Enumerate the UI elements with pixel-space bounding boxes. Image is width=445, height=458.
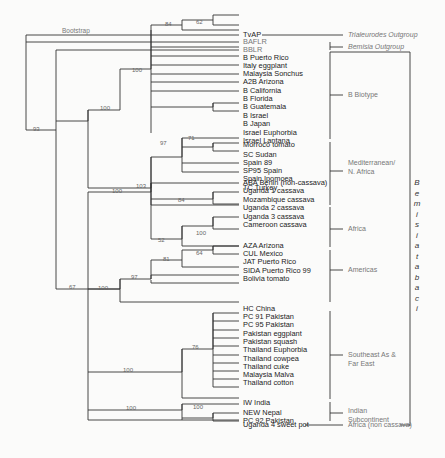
bootstrap-value: 52 — [158, 237, 165, 243]
bootstrap-value: 103 — [136, 183, 146, 189]
tip-label: Bolivia tomato — [243, 275, 289, 283]
group-label: Southeast As &Far East — [348, 351, 396, 368]
group-label: Bemisia Outgroup — [348, 43, 404, 52]
tip-label: IW India — [243, 399, 270, 407]
tip-label: Uganda 2 cassava — [243, 204, 304, 212]
bootstrap-value: 100 — [193, 404, 203, 410]
tip-label: Uganda 4 sweet pot — [243, 421, 309, 429]
tip-label: A2B Arizona — [243, 78, 284, 86]
bootstrap-value: 71 — [188, 135, 195, 141]
bootstrap-value: 100 — [132, 67, 142, 73]
tip-label: Morroco tomato — [243, 141, 295, 149]
bootstrap-value: 62 — [196, 19, 203, 25]
tip-label: Uganda 1 cassava — [243, 187, 304, 195]
group-label: Africa — [348, 225, 366, 234]
bootstrap-value: 97 — [131, 274, 138, 280]
tip-label: B Guatemala — [243, 103, 286, 111]
bootstrap-value: 67 — [69, 284, 76, 290]
tip-label: Thailand Euphorbia — [243, 346, 307, 354]
group-label: Americas — [348, 266, 377, 275]
group-label: Trialeurodes Outgroup — [348, 31, 418, 40]
bootstrap-value: 100 — [126, 405, 136, 411]
bootstrap-value: 97 — [160, 140, 167, 146]
bootstrap-value: 100 — [100, 105, 110, 111]
bootstrap-value: 84 — [178, 197, 185, 203]
phylogenetic-tree — [0, 0, 445, 458]
group-label: Mediterranean/N. Africa — [348, 159, 395, 176]
tip-label: Thailand cotton — [243, 379, 294, 387]
group-label: Africa (non cassava) — [348, 421, 412, 430]
species-label: Bemisiatabaci — [411, 178, 423, 315]
tip-label: B Japan — [243, 120, 270, 128]
bootstrap-value: 84 — [165, 21, 172, 27]
bootstrap-value: 100 — [196, 230, 206, 236]
bootstrap-value: 100 — [112, 188, 122, 194]
branch-bblr — [56, 50, 239, 121]
group-label: B Biotype — [348, 91, 378, 100]
bootstrap-value: 100 — [123, 367, 133, 373]
tip-label: JAT Puerto Rico — [243, 258, 296, 266]
branch-root — [26, 35, 239, 130]
bootstrap-value: 76 — [192, 344, 199, 350]
bootstrap-value: 100 — [98, 285, 108, 291]
bootstrap-value: 81 — [163, 256, 170, 262]
bootstrap-value: 93 — [33, 126, 40, 132]
tip-label: PC 95 Pakistan — [243, 321, 294, 329]
bootstrap-axis-label: Bootstrap — [62, 27, 90, 34]
tip-label: Cameroon cassava — [243, 221, 307, 229]
bootstrap-value: 64 — [196, 250, 203, 256]
